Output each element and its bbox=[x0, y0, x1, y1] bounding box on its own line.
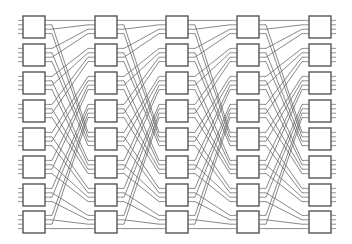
wire bbox=[193, 62, 232, 146]
wire bbox=[264, 104, 304, 188]
wire bbox=[193, 25, 232, 133]
wire bbox=[122, 220, 161, 224]
wire bbox=[122, 62, 161, 146]
wire bbox=[264, 25, 304, 29]
wire bbox=[50, 25, 90, 29]
switch-box bbox=[237, 156, 259, 178]
switch-box bbox=[309, 44, 331, 66]
switch-box bbox=[95, 100, 117, 122]
switch-box bbox=[166, 72, 188, 94]
wire bbox=[122, 25, 161, 133]
switch-box bbox=[237, 44, 259, 66]
switch-box bbox=[166, 44, 188, 66]
switch-box bbox=[237, 128, 259, 150]
switch-box bbox=[95, 156, 117, 178]
switch-box bbox=[23, 128, 45, 150]
switch-box bbox=[309, 156, 331, 178]
switch-box bbox=[166, 184, 188, 206]
switch-box bbox=[237, 16, 259, 38]
wire bbox=[50, 220, 90, 224]
switch-box bbox=[166, 100, 188, 122]
switch-box bbox=[166, 128, 188, 150]
interconnection-network-diagram bbox=[0, 0, 352, 244]
switch-box bbox=[23, 211, 45, 233]
wire bbox=[264, 118, 304, 225]
switch-box bbox=[309, 128, 331, 150]
switch-box bbox=[166, 16, 188, 38]
switch-box bbox=[237, 100, 259, 122]
switch-box bbox=[95, 211, 117, 233]
switch-box bbox=[23, 184, 45, 206]
switch-box bbox=[237, 72, 259, 94]
wire bbox=[193, 220, 232, 224]
wire bbox=[122, 118, 161, 225]
switch-box bbox=[309, 100, 331, 122]
switch-box bbox=[23, 72, 45, 94]
wire bbox=[122, 104, 161, 188]
switch-box bbox=[23, 44, 45, 66]
switch-box bbox=[237, 184, 259, 206]
wire bbox=[50, 118, 90, 225]
switch-box bbox=[95, 44, 117, 66]
switch-box bbox=[23, 16, 45, 38]
switch-box bbox=[23, 156, 45, 178]
switch-box bbox=[309, 211, 331, 233]
switch-box bbox=[309, 72, 331, 94]
switch-box bbox=[309, 16, 331, 38]
wire bbox=[264, 62, 304, 146]
switch-box bbox=[95, 184, 117, 206]
wire bbox=[193, 104, 232, 188]
wire bbox=[193, 118, 232, 225]
wire bbox=[264, 220, 304, 224]
wire bbox=[122, 25, 161, 29]
switch-box bbox=[309, 184, 331, 206]
wire bbox=[193, 25, 232, 29]
wire bbox=[50, 104, 90, 188]
switch-box bbox=[95, 16, 117, 38]
switch-box bbox=[166, 211, 188, 233]
switch-box bbox=[95, 128, 117, 150]
switch-box bbox=[166, 156, 188, 178]
wire bbox=[50, 62, 90, 146]
switch-box bbox=[95, 72, 117, 94]
switch-box bbox=[23, 100, 45, 122]
switch-box bbox=[237, 211, 259, 233]
